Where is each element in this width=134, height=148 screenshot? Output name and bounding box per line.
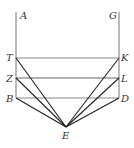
label-B: B [5,93,13,104]
label-D: D [120,93,129,104]
geometry-figure: A G T K Z L B D E [0,0,134,148]
label-Z: Z [5,73,14,84]
figure-canvas: A G T K Z L B D E [0,0,134,148]
label-T: T [6,52,14,63]
label-L: L [120,73,128,84]
label-A: A [19,10,27,21]
label-E: E [61,130,70,141]
label-K: K [120,52,129,63]
label-G: G [109,10,117,21]
segment-TE [16,58,66,127]
segment-KE [66,58,119,127]
